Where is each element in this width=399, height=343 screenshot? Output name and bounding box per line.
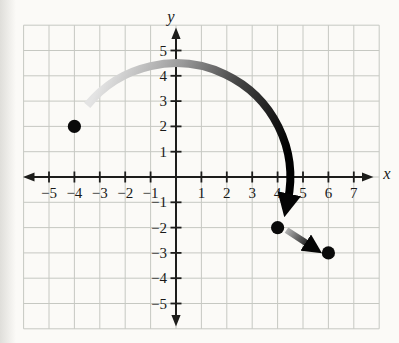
curved-rotation-arrow	[87, 63, 290, 200]
y-tick-label: −1	[151, 194, 167, 210]
plotted-point	[271, 221, 284, 234]
x-tick-label: 4	[274, 185, 282, 201]
y-tick-label: 4	[160, 68, 168, 84]
x-tick-label: −5	[41, 185, 57, 201]
x-tick-label: −3	[92, 185, 108, 201]
y-tick-label: 2	[160, 118, 168, 134]
x-tick-label: 7	[350, 185, 358, 201]
y-tick-label: −2	[151, 220, 167, 236]
x-tick-label: 3	[248, 185, 256, 201]
coordinate-plane: −5−4−3−2−11234567 54321−1−2−3−4−5 x y	[0, 0, 399, 343]
short-translation-arrow	[287, 230, 311, 246]
y-axis-label: y	[165, 7, 175, 26]
x-tick-label: 1	[198, 185, 206, 201]
x-axis-label: x	[382, 164, 391, 183]
plotted-point	[68, 120, 81, 133]
axis-arrowhead-icon	[171, 28, 180, 40]
x-tick-label: −2	[117, 185, 133, 201]
x-tick-labels: −5−4−3−2−11234567	[41, 185, 358, 201]
axis-arrowhead-icon	[23, 172, 35, 181]
plotted-point	[322, 246, 335, 259]
y-tick-label: 5	[160, 43, 168, 59]
y-tick-label: −3	[151, 245, 167, 261]
axis-arrowhead-icon	[171, 315, 180, 327]
y-tick-label: −4	[151, 270, 167, 286]
coordinate-plane-figure: −5−4−3−2−11234567 54321−1−2−3−4−5 x y	[0, 0, 399, 343]
axes	[23, 28, 374, 327]
axis-arrowhead-icon	[362, 172, 374, 181]
x-tick-label: −4	[66, 185, 82, 201]
x-tick-label: 5	[299, 185, 307, 201]
x-tick-label: 6	[325, 185, 333, 201]
y-tick-label: 3	[160, 93, 168, 109]
y-tick-label: −5	[151, 296, 167, 312]
y-tick-label: 1	[160, 144, 168, 160]
x-tick-label: 2	[223, 185, 231, 201]
